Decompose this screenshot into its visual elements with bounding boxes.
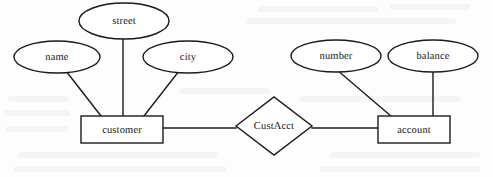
attribute-label-balance: balance [416,52,449,63]
attribute-label-street: street [112,17,136,28]
edge-number-account [337,70,391,116]
er-diagram-canvas: namestreetcitynumberbalancecustomeraccou… [0,0,493,177]
entity-label-account: account [397,125,431,136]
edge-name-customer [66,71,101,116]
attribute-label-city: city [180,53,196,64]
relationship-label-custacct: CustAcct [254,122,294,133]
attribute-label-number: number [320,52,353,63]
er-diagram-graphics [0,0,493,177]
attribute-label-name: name [45,53,68,64]
entity-label-customer: customer [102,125,142,136]
edge-city-customer [144,71,179,116]
